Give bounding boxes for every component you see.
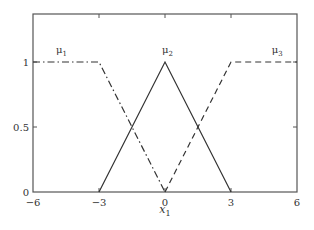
series-label-mu1: μ1 <box>56 44 67 58</box>
x-tick-label: 3 <box>228 197 234 208</box>
series-line-mu3 <box>165 62 297 192</box>
y-tick-label: 1 <box>23 57 29 68</box>
plot-border <box>33 14 297 192</box>
axis-ticks <box>33 14 297 192</box>
membership-function-chart: μ1μ2μ3 −6−303600.51 x1 <box>0 0 314 230</box>
y-tick-label: 0.5 <box>13 122 29 133</box>
x-tick-label: 6 <box>294 197 300 208</box>
series-lines <box>33 62 297 192</box>
y-tick-label: 0 <box>23 187 29 198</box>
series-label-mu3: μ3 <box>272 44 283 58</box>
series-labels: μ1μ2μ3 <box>56 44 283 58</box>
x-tick-label: −3 <box>92 197 107 208</box>
series-label-mu2: μ2 <box>162 44 173 58</box>
series-line-mu2 <box>99 62 231 192</box>
plot-frame <box>33 14 297 192</box>
series-line-mu1 <box>33 62 165 192</box>
x-tick-label: −6 <box>26 197 41 208</box>
x-axis-label: x1 <box>159 203 170 218</box>
